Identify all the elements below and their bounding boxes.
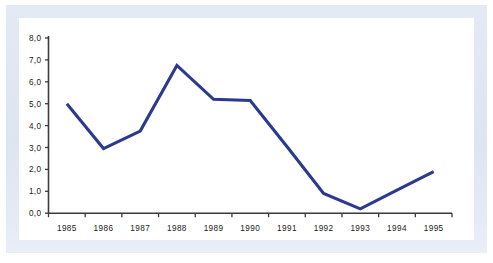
x-axis-tick-label: 1991 [277,224,297,233]
x-axis-tick-label: 1989 [204,224,224,233]
y-axis-tick-label: 1,0 [29,187,42,196]
chart-figure: 0,01,02,03,04,05,06,07,08,0 198519861987… [0,0,493,263]
y-axis-tick-label: 8,0 [29,34,42,43]
x-axis-tick-label: 1990 [240,224,260,233]
x-axis-tick-label: 1985 [57,224,77,233]
x-axis-tick-label: 1986 [94,224,114,233]
y-axis: 0,01,02,03,04,05,06,07,08,0 [29,34,49,218]
y-axis-tick-labels: 0,01,02,03,04,05,06,07,08,0 [29,34,42,218]
x-axis-tick-labels: 1985198619871988198919901991199219931994… [57,224,444,233]
y-axis-tick-label: 5,0 [29,100,42,109]
y-axis-tick-label: 0,0 [29,209,42,218]
y-axis-tick-label: 2,0 [29,165,42,174]
line-chart-canvas: 0,01,02,03,04,05,06,07,08,0 198519861987… [0,0,493,263]
y-axis-tick-label: 4,0 [29,122,42,131]
y-axis-tick-label: 6,0 [29,78,42,87]
x-axis-tick-label: 1988 [167,224,187,233]
x-axis-tick-label: 1993 [350,224,370,233]
y-axis-tick-label: 3,0 [29,144,42,153]
x-axis-tick-label: 1987 [130,224,150,233]
data-series-group [67,65,434,208]
y-axis-tick-label: 7,0 [29,56,42,65]
x-axis-tick-label: 1992 [314,224,334,233]
x-axis: 1985198619871988198919901991199219931994… [48,213,452,233]
x-axis-tick-label: 1994 [387,224,407,233]
x-axis-tick-label: 1995 [424,224,444,233]
data-series-line [67,65,434,208]
